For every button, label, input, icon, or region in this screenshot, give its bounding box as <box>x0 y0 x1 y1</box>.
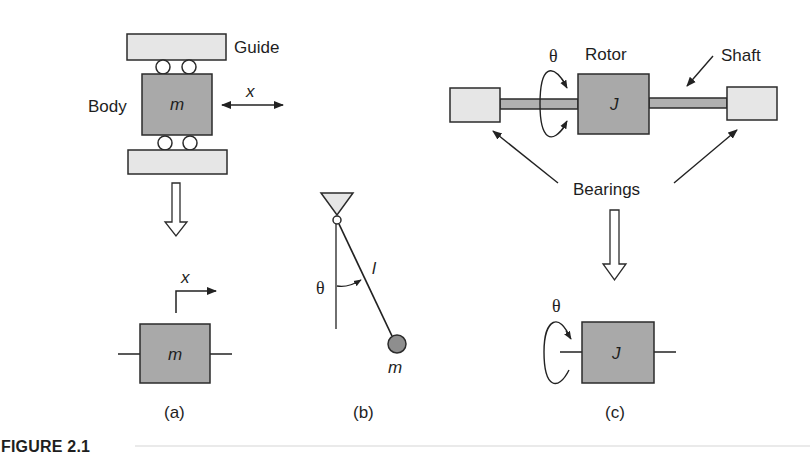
rotor-theta-symbol: θ <box>549 46 558 66</box>
figure-canvas: Guide Body m x x m (a) θ l m (b) <box>0 0 810 463</box>
angle-arc-arrow-icon <box>337 280 361 286</box>
model-displacement-symbol: x <box>180 268 190 287</box>
shaft-pointer-arrow <box>687 56 713 86</box>
model-rotation-arrowhead <box>566 331 571 339</box>
pendulum-bob <box>388 335 406 353</box>
shaft-right <box>649 98 727 108</box>
bearing-left-pointer-arrow <box>493 131 558 183</box>
pendulum-rod <box>339 224 392 336</box>
shaft-left <box>500 99 578 109</box>
bearing-left <box>450 88 500 122</box>
length-symbol: l <box>372 259 377 278</box>
model-theta-symbol: θ <box>552 296 561 316</box>
rotor-inertia-symbol: J <box>609 95 619 114</box>
right-step-arrow-icon <box>176 291 216 313</box>
caption-b: (b) <box>353 403 374 422</box>
roller-icon <box>156 60 170 74</box>
roller-icon <box>183 136 197 150</box>
hollow-down-arrow-icon <box>603 210 626 280</box>
bearings-label: Bearings <box>573 180 640 199</box>
body-mass-symbol: m <box>170 95 184 114</box>
pivot-icon <box>333 216 341 224</box>
panel-b: θ l m (b) <box>316 193 406 422</box>
body-label: Body <box>88 97 127 116</box>
bottom-guide <box>128 150 227 174</box>
pivot-support-icon <box>321 193 353 215</box>
rotation-arrowhead-bottom <box>562 121 567 130</box>
model-mass-symbol: m <box>168 345 182 364</box>
roller-icon <box>158 136 172 150</box>
panel-c: J θ Rotor Shaft Bearings J θ (c) <box>450 45 777 422</box>
bearing-right <box>727 87 777 120</box>
top-guide <box>127 34 226 60</box>
guide-label: Guide <box>234 38 279 57</box>
figure-label: FIGURE 2.1 <box>1 438 90 455</box>
theta-symbol: θ <box>316 278 325 298</box>
caption-a: (a) <box>164 403 185 422</box>
bob-mass-symbol: m <box>388 358 402 377</box>
roller-icon <box>182 60 196 74</box>
rotation-arrowhead-top <box>562 79 567 88</box>
rotor-label: Rotor <box>585 45 627 64</box>
displacement-symbol: x <box>245 82 255 101</box>
shaft-label: Shaft <box>721 46 761 65</box>
model-inertia-symbol: J <box>611 344 621 363</box>
caption-c: (c) <box>605 403 625 422</box>
bearing-right-pointer-arrow <box>674 130 737 183</box>
hollow-down-arrow-icon <box>165 183 187 236</box>
panel-a: Guide Body m x x m (a) <box>88 34 283 422</box>
